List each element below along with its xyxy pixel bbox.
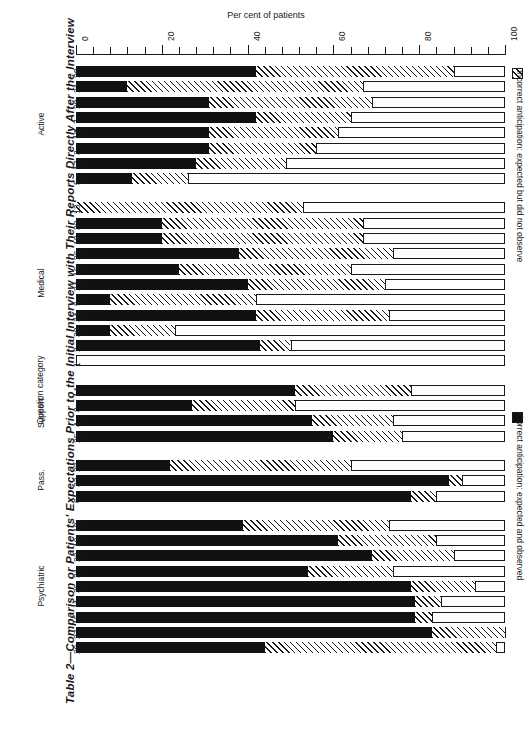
row-category-label: 8: [72, 407, 82, 412]
row-category-label: 32: [72, 221, 82, 230]
bar-row: [76, 279, 505, 290]
axis-tick-label: 100: [509, 27, 519, 41]
bar-segment-incorrect: [162, 233, 364, 244]
bar-row: [76, 566, 505, 577]
bar-segment-divider: [363, 81, 364, 92]
bar-row: [76, 520, 505, 531]
axis-minor-tick: [488, 47, 489, 54]
axis-minor-tick: [454, 47, 455, 54]
bar-segment-correct: [76, 400, 192, 411]
bar-segment-correct: [76, 415, 312, 426]
bar-row: [76, 127, 505, 138]
bar-segment-incorrect: [192, 400, 295, 411]
bar-row: [76, 340, 505, 351]
axis-minor-tick: [351, 47, 352, 54]
row-category-label: 4: [72, 422, 82, 427]
bar-segment-divider: [338, 127, 339, 138]
bar-segment-incorrect: [411, 581, 475, 592]
bar-segment-divider: [432, 612, 433, 623]
axis-minor-tick: [299, 47, 300, 54]
axis-minor-tick: [196, 47, 197, 54]
axis-minor-tick: [179, 47, 180, 54]
bar-segment-correct: [76, 248, 239, 259]
bar-segment-incorrect: [209, 97, 372, 108]
bar-segment-correct: [76, 431, 333, 442]
axis-minor-tick: [282, 47, 283, 54]
bar-segment-divider: [475, 581, 476, 592]
bar-segment-correct: [76, 173, 132, 184]
bar-segment-divider: [351, 460, 352, 471]
bar-segment-incorrect: [333, 431, 402, 442]
bar-segment-correct: [76, 550, 372, 561]
legend-label: Incorrect anticipation: expected but did…: [515, 70, 525, 262]
plot-area: 0204060801002021287123175Active133218261…: [0, 0, 532, 749]
bar-segment-divider: [441, 596, 442, 607]
group-label: Support.: [36, 377, 46, 447]
bar-segment-incorrect: [196, 158, 286, 169]
row-category-label: 23: [72, 463, 82, 472]
row-category-label: 25: [72, 434, 82, 443]
bar-segment-divider: [454, 550, 455, 561]
bar-segment-incorrect: [295, 385, 411, 396]
bar-row: [76, 233, 505, 244]
axis-major-tick: [419, 45, 420, 54]
bar-segment-divider: [389, 310, 390, 321]
group-label: Medical: [36, 248, 46, 318]
bar-segment-incorrect: [209, 127, 338, 138]
bar-segment-incorrect: [260, 340, 290, 351]
row-category-label: 10: [72, 523, 82, 532]
bar-segment-incorrect: [132, 173, 188, 184]
row-category-label: 35: [72, 584, 82, 593]
bar-segment-incorrect: [415, 596, 441, 607]
bar-row: [76, 581, 505, 592]
bar-row: [76, 535, 505, 546]
bar-row: [76, 202, 505, 213]
bar-segment-incorrect: [239, 248, 393, 259]
row-category-label: 13: [72, 205, 82, 214]
bar-segment-incorrect: [248, 279, 385, 290]
row-category-label: 14: [72, 388, 82, 397]
axis-tick-label: 0: [80, 36, 90, 41]
axis-tick-label: 40: [252, 32, 262, 41]
row-category-label: 22: [72, 553, 82, 562]
bar-row: [76, 81, 505, 92]
axis-major-tick: [248, 45, 249, 54]
bar-segment-correct: [76, 233, 162, 244]
bar-row: [76, 642, 505, 653]
bar-segment-correct: [76, 475, 449, 486]
row-category-label: 28: [72, 100, 82, 109]
bar-segment-incorrect: [170, 460, 350, 471]
bar-row: [76, 612, 505, 623]
bar-row: [76, 143, 505, 154]
axis-tick-label: 60: [337, 32, 347, 41]
bar-row: [76, 627, 505, 638]
bar-segment-correct: [76, 158, 196, 169]
figure-page: Table 2—Comparison or Patients' Expectat…: [0, 0, 532, 749]
bar-segment-correct: [76, 642, 265, 653]
bar-segment-correct: [76, 264, 179, 275]
axis-minor-tick: [368, 47, 369, 54]
bar-row: [76, 491, 505, 502]
row-category-label: 34: [72, 313, 82, 322]
bar-row: [76, 431, 505, 442]
group-label: Pass.: [36, 445, 46, 515]
legend-label: Correct anticipation: expected and obser…: [515, 414, 525, 580]
bar-segment-incorrect: [256, 66, 453, 77]
bar-segment-correct: [76, 566, 308, 577]
bar-segment-correct: [76, 66, 256, 77]
row-category-label: 20: [72, 69, 82, 78]
axis-major-tick: [162, 45, 163, 54]
bar-segment-incorrect: [110, 294, 256, 305]
bar-row: [76, 475, 505, 486]
bar-segment-correct: [76, 385, 295, 396]
bar-row: [76, 550, 505, 561]
bar-segment-correct: [76, 127, 209, 138]
bar-segment-divider: [393, 248, 394, 259]
bar-segment-incorrect: [256, 310, 389, 321]
bar-segment-incorrect: [162, 218, 364, 229]
bar-row: [76, 460, 505, 471]
bar-segment-incorrect: [432, 627, 505, 638]
bar-segment-correct: [76, 612, 415, 623]
axis-minor-tick: [265, 47, 266, 54]
row-category-label: 18: [72, 236, 82, 245]
